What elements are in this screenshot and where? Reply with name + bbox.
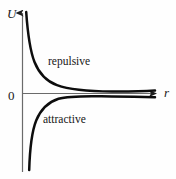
attractive-curve-label: attractive [43,114,86,126]
plot-canvas [0,0,176,179]
origin-tick-label: 0 [8,89,15,102]
potential-energy-figure: U r 0 repulsive attractive [0,0,176,179]
attractive-curve [29,96,155,170]
repulsive-curve [26,12,155,92]
repulsive-curve-label: repulsive [48,56,90,68]
x-axis-label: r [164,86,169,99]
y-axis-label: U [7,7,16,20]
